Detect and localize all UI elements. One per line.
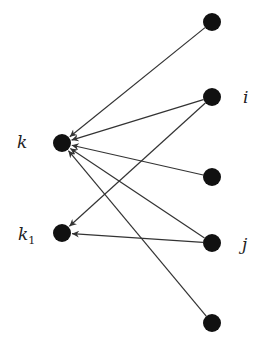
graph-canvas [0, 0, 266, 338]
node-n3 [203, 168, 221, 186]
node-n1 [203, 13, 221, 31]
node-j [203, 234, 221, 252]
edge-j-to-k [70, 149, 204, 238]
label-i: i [243, 89, 248, 106]
edge-n5-to-k [68, 151, 206, 316]
node-i [203, 88, 221, 106]
node-n5 [203, 314, 221, 332]
label-k1: k1 [18, 226, 35, 243]
nodes [53, 13, 221, 332]
node-k1 [53, 224, 71, 242]
node-k [53, 134, 71, 152]
label-j: j [242, 236, 247, 253]
edge-j-to-k1 [72, 234, 203, 243]
edge-n3-to-k [72, 145, 203, 175]
label-k: k [17, 134, 27, 151]
edges [68, 28, 206, 316]
edge-i-to-k1 [69, 103, 205, 226]
